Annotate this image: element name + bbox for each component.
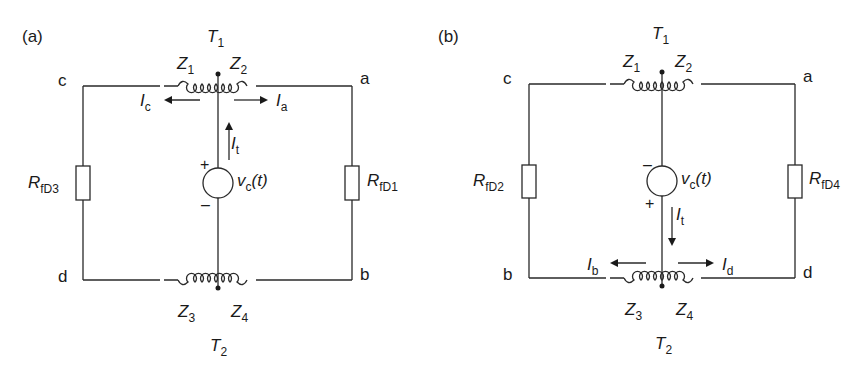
resistor-rfd4-label: RfD4: [809, 170, 840, 187]
transformer-t1-label: T1: [652, 25, 669, 42]
node-b-label: b: [503, 266, 512, 283]
source-plus-sign: +: [200, 157, 209, 173]
winding-z2-label: Z2: [675, 53, 692, 70]
node-d-label: d: [58, 268, 67, 285]
node-dot-bottom-a: [216, 286, 221, 291]
panel-b-circuit: [522, 72, 802, 286]
source-vc-label: vc(t): [237, 172, 268, 189]
source-plus-sign: +: [645, 196, 654, 212]
coil-bottom: [624, 271, 693, 282]
node-dot-top-b: [660, 70, 665, 75]
panel-b-label: (b): [438, 28, 459, 45]
resistor-rfd1: [345, 166, 359, 200]
winding-z1-label: Z1: [177, 55, 194, 72]
current-it-label: It: [676, 206, 684, 223]
resistor-rfd3: [76, 166, 90, 200]
node-dot-top-a: [216, 72, 221, 77]
winding-z4-label: Z4: [676, 301, 693, 318]
winding-z3-label: Z3: [625, 301, 642, 318]
winding-z3-label: Z3: [178, 303, 195, 320]
current-ib-label: Ib: [587, 256, 598, 273]
coil-top: [624, 79, 693, 90]
node-dot-bottom-b: [660, 284, 665, 289]
resistor-rfd3-label: RfD3: [28, 174, 59, 191]
transformer-t2-label: T2: [655, 335, 672, 352]
current-ic-label: Ic: [140, 92, 151, 109]
node-b-label: b: [360, 266, 369, 283]
node-a-label: a: [803, 68, 812, 85]
panel-a-circuit: [76, 74, 359, 288]
node-d-label: d: [803, 264, 812, 281]
coil-top: [178, 81, 247, 92]
node-c-label: c: [58, 72, 67, 89]
winding-z1-label: Z1: [623, 53, 640, 70]
transformer-t2-label: T2: [210, 337, 227, 354]
winding-z2-label: Z2: [230, 55, 247, 72]
transformer-t1-label: T1: [207, 28, 224, 45]
resistor-rfd4: [788, 165, 802, 198]
current-id-label: Id: [722, 256, 733, 273]
resistor-rfd2: [522, 165, 536, 198]
panel-a-label: (a): [22, 28, 43, 45]
current-it-label: It: [231, 135, 239, 152]
source-minus-sign: –: [201, 197, 210, 213]
coil-bottom: [178, 273, 247, 284]
circuit-diagram: [0, 0, 862, 374]
node-a-label: a: [360, 70, 369, 87]
node-c-label: c: [503, 70, 512, 87]
source-minus-sign: –: [643, 157, 652, 173]
winding-z4-label: Z4: [231, 303, 248, 320]
source-vc-label: vc(t): [681, 170, 712, 187]
resistor-rfd1-label: RfD1: [367, 172, 398, 189]
current-ia-label: Ia: [276, 92, 287, 109]
resistor-rfd2-label: RfD2: [473, 172, 504, 189]
